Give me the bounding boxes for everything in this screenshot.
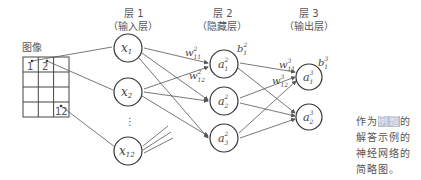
weight-w11-3: w311 xyxy=(279,57,295,72)
weight-w11-2: w211 xyxy=(185,45,201,60)
input-hidden-connections xyxy=(139,48,208,138)
x12-stub-connections xyxy=(143,126,173,153)
layer1-title: 层 1 xyxy=(124,8,144,19)
layer1-subtitle: （输入层） xyxy=(108,20,158,32)
pixel-label-12: 12 xyxy=(55,106,68,117)
output-layer: a31 a32 xyxy=(296,64,322,130)
figure-caption: 作为例题的解答示例的神经网络的简略图。 xyxy=(356,114,418,178)
bias-b1-3: b31 xyxy=(318,55,328,70)
image-title: 图像 xyxy=(22,42,42,53)
bias-b1-2: b21 xyxy=(237,41,247,56)
hidden-layer: a21 a22 a23 xyxy=(210,50,238,152)
weight-w12-3: w312 xyxy=(272,73,288,88)
layer2-subtitle: （隐藏层） xyxy=(197,21,247,32)
layer3-title: 层 3 xyxy=(299,8,319,19)
caption-highlight: 例题 xyxy=(378,116,400,127)
layer2-title: 层 2 xyxy=(213,8,233,19)
layer-headers: 层 1 （输入层） 层 2 （隐藏层） 层 3 （输出层） xyxy=(108,8,334,32)
pixel-label-1: 1 xyxy=(27,61,33,72)
ellipsis: ⋮ xyxy=(125,116,135,127)
caption-prefix: 作为 xyxy=(356,116,378,127)
pixel-label-2: 2 xyxy=(42,61,48,72)
hidden-output-connections xyxy=(238,63,296,138)
weight-w12-2: w212 xyxy=(189,68,205,83)
layer3-subtitle: （输出层） xyxy=(284,20,334,32)
input-layer: x1 x2 ⋮ x12 xyxy=(114,34,142,165)
image-grid: 图像 1 2 12 xyxy=(22,42,69,117)
